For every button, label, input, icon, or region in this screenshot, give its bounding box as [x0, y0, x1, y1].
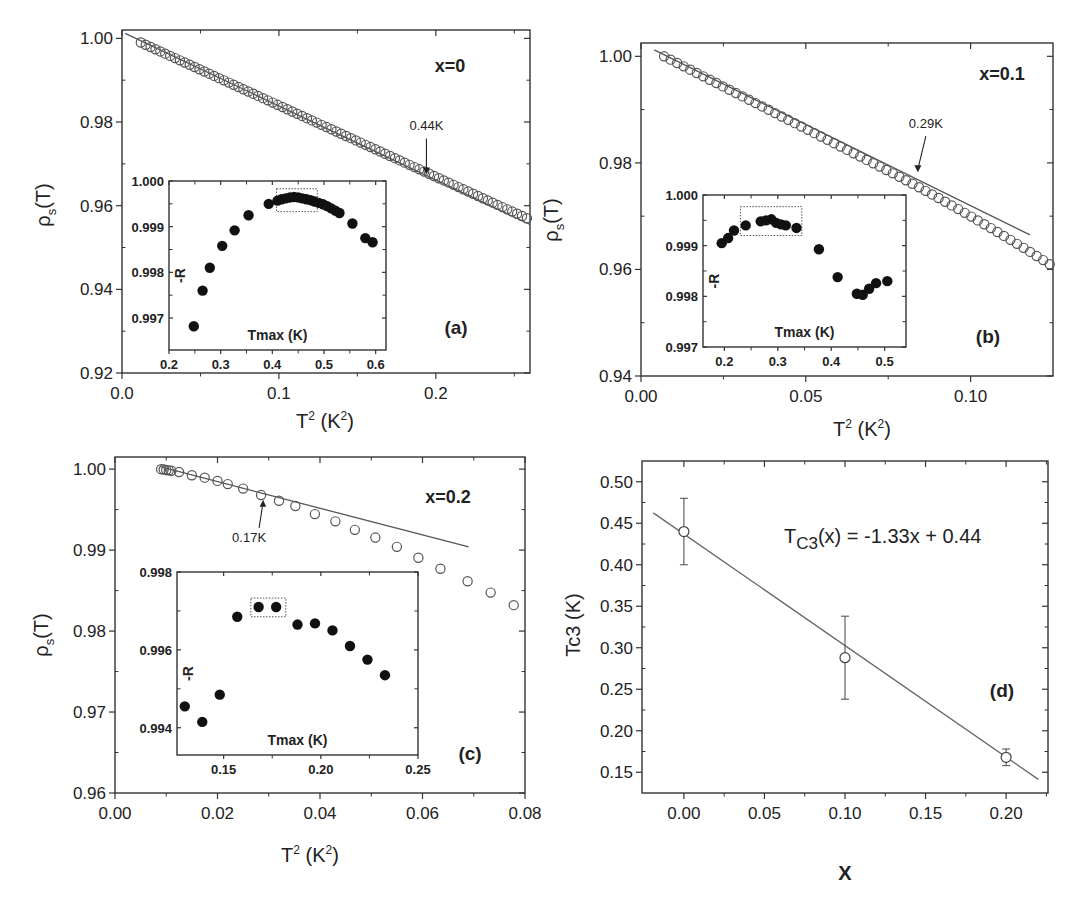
y-tick-label: 0.96: [80, 197, 113, 216]
inset-data-point: [205, 263, 215, 273]
data-point: [679, 527, 689, 537]
x-tick-label: 0.10: [828, 804, 861, 823]
panel-label: (b): [976, 326, 1000, 347]
y-tick-label: 0.94: [80, 280, 113, 299]
inset-y-axis-title: -R: [180, 666, 196, 681]
x-tick-label: 0.3: [212, 357, 230, 372]
y-tick-label: 0.96: [73, 784, 106, 803]
data-point: [392, 542, 401, 551]
panel-label: (d): [990, 680, 1014, 701]
inset-data-point: [345, 641, 355, 651]
data-point: [1032, 251, 1041, 260]
y-tick-label: 0.97: [73, 703, 106, 722]
y-axis-title: ρs(T): [30, 613, 57, 656]
y-tick-label: 0.994: [139, 721, 172, 736]
x-tick-label: 0.25: [405, 762, 430, 777]
y-tick-label: 0.92: [80, 364, 113, 383]
x-tick-label: 0.6: [367, 357, 385, 372]
inset-data-point: [380, 670, 390, 680]
annotation-label: 0.29K: [909, 116, 943, 131]
inset-data-point: [367, 237, 377, 247]
inset-data-point: [362, 654, 372, 664]
figure-canvas: 0.00.10.20.920.940.960.981.000.44Kρs(T)T…: [0, 0, 1081, 906]
x-tick-label: 0.2: [160, 357, 178, 372]
y-tick-label: 0.99: [73, 541, 106, 560]
data-point: [414, 553, 423, 562]
panel-d-chart: 0.000.050.100.150.200.150.200.250.300.35…: [562, 461, 1048, 884]
y-tick-label: 0.999: [131, 220, 164, 235]
inset-x-axis-title: Tmax (K): [248, 327, 308, 343]
inset-data-point: [271, 602, 281, 612]
data-point: [463, 577, 472, 586]
inset-data-point: [791, 223, 801, 233]
series-label: x=0.2: [425, 487, 471, 507]
y-tick-label: 1.00: [80, 29, 113, 48]
panel-a-chart: 0.00.10.20.920.940.960.981.000.44Kρs(T)T…: [32, 29, 531, 432]
data-point: [371, 533, 380, 542]
inset-y-axis-title: -R: [172, 268, 188, 283]
inset-data-point: [347, 218, 357, 228]
y-tick-label: 0.45: [600, 514, 633, 533]
data-point: [291, 501, 300, 510]
inset-data-point: [871, 278, 881, 288]
inset-data-point: [197, 285, 207, 295]
data-point: [1039, 256, 1048, 265]
y-tick-label: 0.15: [600, 763, 633, 782]
x-tick-label: 0.05: [789, 387, 822, 406]
inset-y-axis-title: -R: [706, 274, 722, 289]
y-tick-label: 0.30: [600, 639, 633, 658]
y-tick-label: 0.98: [599, 154, 632, 173]
x-axis-title: T2 (K2): [281, 843, 339, 866]
x-tick-label: 0.06: [406, 804, 439, 823]
x-tick-label: 0.20: [308, 762, 333, 777]
series-label: x=0.1: [979, 64, 1025, 84]
x-tick-label: 0.00: [624, 387, 657, 406]
x-tick-label: 0.2: [424, 384, 448, 403]
y-tick-label: 0.94: [599, 367, 632, 386]
data-point: [1001, 752, 1011, 762]
linear-fit-line: [653, 513, 1038, 780]
y-tick-label: 0.996: [139, 643, 172, 658]
inset-data-point: [243, 210, 253, 220]
x-tick-label: 0.2: [715, 354, 733, 369]
inset-data-point: [197, 717, 207, 727]
x-tick-label: 0.15: [909, 804, 942, 823]
y-tick-label: 0.25: [600, 680, 633, 699]
x-axis-title: T2 (K2): [296, 409, 354, 432]
x-tick-label: 0.00: [667, 804, 700, 823]
inset-data-point: [327, 625, 337, 635]
inset-data-point: [189, 321, 199, 331]
data-point: [331, 517, 340, 526]
y-tick-label: 1.00: [599, 47, 632, 66]
data-point: [310, 509, 319, 518]
data-point: [1019, 243, 1028, 252]
inset-x-axis-title: Tmax (K): [775, 324, 835, 340]
panel-label: (a): [444, 317, 467, 338]
panel-c-chart: 0.000.020.040.060.080.960.970.980.991.00…: [30, 457, 542, 866]
y-tick-label: 0.997: [665, 340, 698, 355]
y-tick-label: 0.98: [73, 622, 106, 641]
data-point: [436, 564, 445, 573]
data-point: [350, 525, 359, 534]
annotation-label: 0.17K: [232, 530, 266, 545]
y-tick-label: 0.998: [665, 289, 698, 304]
inset-data-point: [832, 272, 842, 282]
inset-chart: 0.20.30.40.50.9970.9980.9991.000Tmax (K)…: [665, 188, 906, 369]
y-tick-label: 0.40: [600, 556, 633, 575]
data-point: [256, 490, 265, 499]
x-tick-label: 0.20: [990, 804, 1023, 823]
inset-data-point: [215, 689, 225, 699]
inset-data-point: [781, 220, 791, 230]
inset-data-point: [882, 276, 892, 286]
y-axis-title: ρs(T): [32, 183, 59, 226]
y-tick-label: 0.999: [665, 239, 698, 254]
x-tick-label: 0.4: [263, 357, 282, 372]
inset-x-axis-title: Tmax (K): [268, 732, 328, 748]
inset-data-point: [232, 612, 242, 622]
annotation-label: 0.44K: [409, 118, 443, 133]
x-tick-label: 0.02: [201, 804, 234, 823]
x-axis-title: X: [838, 862, 852, 884]
linear-fit-line: [160, 467, 469, 547]
panel-label: (c): [458, 743, 481, 764]
x-tick-label: 0.00: [98, 804, 131, 823]
